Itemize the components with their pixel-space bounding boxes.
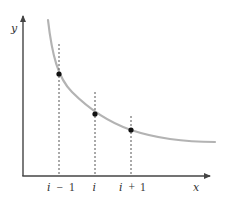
x-axis-label: x [193,181,200,194]
tick-label-i-plus-1: i + 1 [119,177,146,194]
tick-label-i-minus-1: i − 1 [47,177,75,194]
point-i [92,111,97,116]
point-i-plus-1 [128,127,133,132]
function-diagram: y x i − 1 i i + 1 [0,0,225,200]
y-axis-label: y [10,22,18,35]
function-curve [48,20,215,142]
tick-label-i: i [93,181,97,194]
point-i-minus-1 [56,71,61,76]
